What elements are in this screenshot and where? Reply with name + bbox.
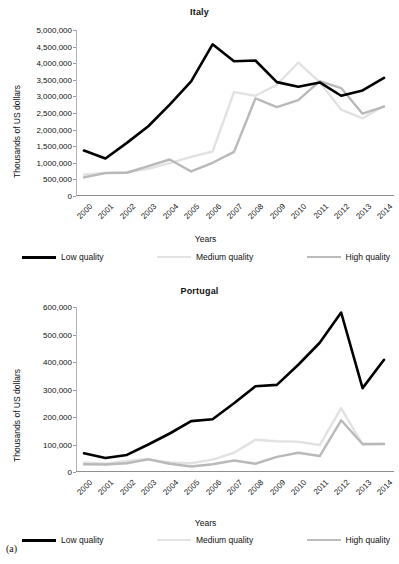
y-axis-label-italy: Thousands of US dollars xyxy=(12,85,22,178)
y-tick-label: 2,000,000 xyxy=(36,125,72,134)
chart-title-portugal: Portugal xyxy=(0,286,399,296)
y-tick-mark xyxy=(73,80,76,81)
figure-caption: (a) xyxy=(6,543,17,554)
y-tick-label: 5,000,000 xyxy=(36,26,72,35)
legend-label-high-quality: High quality xyxy=(346,252,390,262)
legend-item-high-quality-italy: High quality xyxy=(307,252,390,262)
y-tick-mark xyxy=(73,362,76,363)
chart-title-italy: Italy xyxy=(0,7,399,17)
x-axis-label-italy: Years xyxy=(6,234,399,244)
legend-item-low-quality-italy: Low quality xyxy=(22,252,104,262)
y-tick-label: 3,500,000 xyxy=(36,75,72,84)
series-line-medium-quality xyxy=(84,408,384,464)
series-line-high-quality xyxy=(84,420,384,466)
series-lines-portugal xyxy=(76,307,390,472)
y-tick-mark xyxy=(73,113,76,114)
legend-label-high-quality: High quality xyxy=(346,535,390,545)
y-axis-label-portugal: Thousands of US dollars xyxy=(12,369,22,462)
y-tick-mark xyxy=(73,179,76,180)
y-tick-label: 600,000 xyxy=(43,303,72,312)
legend-swatch-medium-quality-icon xyxy=(157,539,191,541)
legend-label-low-quality: Low quality xyxy=(61,252,104,262)
y-tick-label: 3,000,000 xyxy=(36,92,72,101)
y-tick-mark xyxy=(73,196,76,197)
legend-item-medium-quality-portugal: Medium quality xyxy=(157,535,253,545)
series-lines-italy xyxy=(76,30,390,196)
y-tick-mark xyxy=(73,96,76,97)
figure-panel-a: Italy Thousands of US dollars 0500,0001,… xyxy=(0,0,399,564)
y-tick-mark xyxy=(73,130,76,131)
y-tick-mark xyxy=(73,417,76,418)
y-tick-mark xyxy=(73,445,76,446)
y-tick-label: 0 xyxy=(68,468,72,477)
y-tick-mark xyxy=(73,472,76,473)
y-tick-label: 1,000,000 xyxy=(36,158,72,167)
x-axis-label-portugal: Years xyxy=(6,518,399,528)
legend-item-medium-quality-italy: Medium quality xyxy=(157,252,253,262)
legend-swatch-high-quality-icon xyxy=(307,539,341,541)
y-tick-label: 100,000 xyxy=(43,440,72,449)
y-tick-label: 2,500,000 xyxy=(36,109,72,118)
legend-portugal: Low quality Medium quality High quality xyxy=(22,535,390,545)
y-tick-label: 400,000 xyxy=(43,358,72,367)
legend-item-high-quality-portugal: High quality xyxy=(307,535,390,545)
y-tick-mark xyxy=(73,146,76,147)
legend-label-medium-quality: Medium quality xyxy=(196,252,253,262)
series-line-low-quality xyxy=(84,313,384,458)
plot-area-italy: 0500,0001,000,0001,500,0002,000,0002,500… xyxy=(76,30,390,196)
legend-item-low-quality-portugal: Low quality xyxy=(22,535,104,545)
y-tick-mark xyxy=(73,307,76,308)
y-tick-label: 4,000,000 xyxy=(36,59,72,68)
legend-label-low-quality: Low quality xyxy=(61,535,104,545)
legend-label-medium-quality: Medium quality xyxy=(196,535,253,545)
y-tick-mark xyxy=(73,390,76,391)
y-tick-mark xyxy=(73,47,76,48)
legend-swatch-low-quality-icon xyxy=(22,539,56,542)
chart-portugal: Portugal Thousands of US dollars 0100,00… xyxy=(0,282,399,564)
chart-italy: Italy Thousands of US dollars 0500,0001,… xyxy=(0,0,399,282)
y-tick-label: 4,500,000 xyxy=(36,42,72,51)
legend-swatch-high-quality-icon xyxy=(307,256,341,258)
legend-swatch-low-quality-icon xyxy=(22,256,56,259)
y-tick-label: 300,000 xyxy=(43,385,72,394)
y-tick-mark xyxy=(73,30,76,31)
legend-swatch-medium-quality-icon xyxy=(157,256,191,258)
series-line-medium-quality xyxy=(84,63,384,175)
plot-area-portugal: 0100,000200,000300,000400,000500,000600,… xyxy=(76,307,390,472)
y-tick-mark xyxy=(73,335,76,336)
y-tick-label: 200,000 xyxy=(43,413,72,422)
y-tick-label: 0 xyxy=(68,192,72,201)
y-tick-label: 1,500,000 xyxy=(36,142,72,151)
y-tick-mark xyxy=(73,163,76,164)
series-line-low-quality xyxy=(84,44,384,158)
y-tick-mark xyxy=(73,63,76,64)
y-tick-label: 500,000 xyxy=(43,175,72,184)
legend-italy: Low quality Medium quality High quality xyxy=(22,252,390,262)
y-tick-label: 500,000 xyxy=(43,330,72,339)
